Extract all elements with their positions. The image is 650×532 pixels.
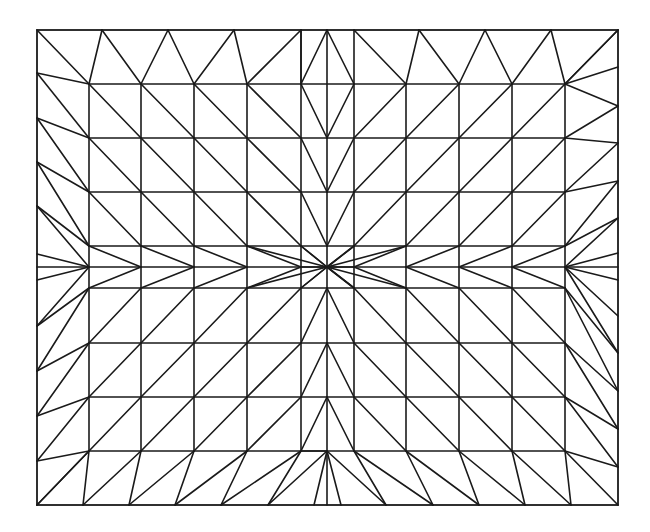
mesh-edge bbox=[565, 288, 618, 353]
mesh-edge bbox=[406, 138, 459, 192]
mesh-edge bbox=[512, 246, 565, 267]
mesh-edge bbox=[194, 267, 247, 288]
mesh-edge bbox=[459, 30, 485, 84]
mesh-edge bbox=[327, 451, 386, 505]
mesh-edge bbox=[354, 84, 406, 138]
mesh-edge bbox=[247, 288, 301, 343]
mesh-edge bbox=[354, 451, 433, 505]
mesh-edge bbox=[565, 397, 618, 429]
mesh-edge bbox=[194, 84, 247, 138]
mesh-edge bbox=[268, 451, 327, 505]
mesh-edge bbox=[247, 397, 301, 451]
mesh-edge bbox=[512, 451, 571, 505]
mesh-edge bbox=[89, 397, 141, 451]
mesh-edge bbox=[194, 138, 247, 192]
mesh-edge bbox=[247, 138, 301, 192]
mesh-diagram bbox=[0, 0, 650, 532]
mesh-edge bbox=[141, 343, 194, 397]
mesh-edge bbox=[301, 30, 327, 84]
mesh-edge bbox=[194, 343, 247, 397]
mesh-edge bbox=[37, 343, 89, 416]
mesh-edge bbox=[354, 246, 406, 267]
mesh-edge bbox=[89, 84, 141, 138]
mesh-edge bbox=[141, 30, 168, 84]
mesh-edge bbox=[247, 267, 301, 288]
mesh-edge bbox=[168, 30, 194, 84]
mesh-edge bbox=[301, 288, 327, 343]
mesh-edge bbox=[406, 246, 459, 267]
mesh-edge bbox=[247, 246, 301, 267]
mesh-edge bbox=[37, 30, 89, 84]
mesh-edge bbox=[512, 84, 565, 138]
mesh-edge bbox=[247, 343, 301, 397]
mesh-edge bbox=[512, 288, 565, 343]
mesh-edge bbox=[89, 30, 102, 84]
mesh-edge bbox=[327, 246, 406, 267]
mesh-edge bbox=[406, 192, 459, 246]
mesh-edge bbox=[141, 267, 194, 288]
mesh-edge bbox=[459, 397, 512, 451]
mesh-edge bbox=[221, 451, 301, 505]
mesh-edge bbox=[141, 397, 194, 451]
mesh-edge bbox=[194, 246, 247, 267]
mesh-edge bbox=[314, 451, 327, 505]
mesh-edge bbox=[485, 30, 512, 84]
mesh-edge bbox=[194, 30, 234, 84]
mesh-edge bbox=[37, 267, 89, 280]
mesh-edge bbox=[406, 84, 459, 138]
mesh-edge bbox=[406, 267, 459, 288]
mesh-edge bbox=[301, 84, 327, 138]
mesh-edge bbox=[459, 343, 512, 397]
mesh-edge bbox=[141, 288, 194, 343]
mesh-edge bbox=[565, 451, 571, 505]
mesh-edge bbox=[354, 451, 386, 505]
mesh-edge bbox=[37, 288, 89, 371]
mesh-edge bbox=[175, 451, 247, 505]
mesh-edge bbox=[459, 138, 512, 192]
mesh-edge bbox=[565, 106, 618, 138]
mesh-edge bbox=[141, 192, 194, 246]
mesh-edge bbox=[89, 267, 141, 288]
mesh-edge bbox=[512, 343, 565, 397]
mesh-edge bbox=[406, 451, 433, 505]
mesh-edge bbox=[459, 192, 512, 246]
mesh-edge bbox=[406, 288, 459, 343]
mesh-edge bbox=[327, 451, 341, 505]
mesh-edge bbox=[512, 267, 565, 288]
mesh-edge bbox=[327, 138, 354, 192]
mesh-edge bbox=[102, 30, 141, 84]
mesh-edge bbox=[459, 246, 512, 267]
mesh-edge bbox=[141, 246, 194, 267]
mesh-edge bbox=[83, 451, 89, 505]
mesh-edge bbox=[354, 267, 406, 288]
mesh-edge bbox=[459, 288, 512, 343]
mesh-edge bbox=[327, 84, 354, 138]
mesh-edge bbox=[194, 288, 247, 343]
mesh-edge bbox=[406, 30, 419, 84]
mesh-edge bbox=[327, 192, 354, 246]
mesh-edge bbox=[551, 30, 565, 84]
mesh-edge bbox=[89, 246, 141, 267]
mesh-edge bbox=[354, 343, 406, 397]
mesh-edges bbox=[37, 30, 618, 505]
mesh-edge bbox=[37, 162, 89, 192]
mesh-edge bbox=[234, 30, 247, 84]
mesh-edge bbox=[89, 288, 141, 343]
mesh-edge bbox=[301, 138, 327, 192]
mesh-edge bbox=[327, 343, 354, 397]
mesh-edge bbox=[512, 397, 565, 451]
mesh-edge bbox=[354, 192, 406, 246]
mesh-edge bbox=[37, 343, 89, 371]
mesh-edge bbox=[327, 288, 354, 343]
mesh-edge bbox=[301, 192, 327, 246]
mesh-edge bbox=[89, 192, 141, 246]
mesh-edge bbox=[247, 84, 301, 138]
mesh-edge bbox=[247, 192, 301, 246]
mesh-edge bbox=[565, 343, 618, 391]
mesh-edge bbox=[327, 267, 406, 288]
mesh-edge bbox=[512, 138, 565, 192]
mesh-edge bbox=[565, 343, 618, 429]
mesh-edge bbox=[459, 84, 512, 138]
mesh-edge bbox=[268, 451, 301, 505]
mesh-edge bbox=[354, 30, 406, 84]
